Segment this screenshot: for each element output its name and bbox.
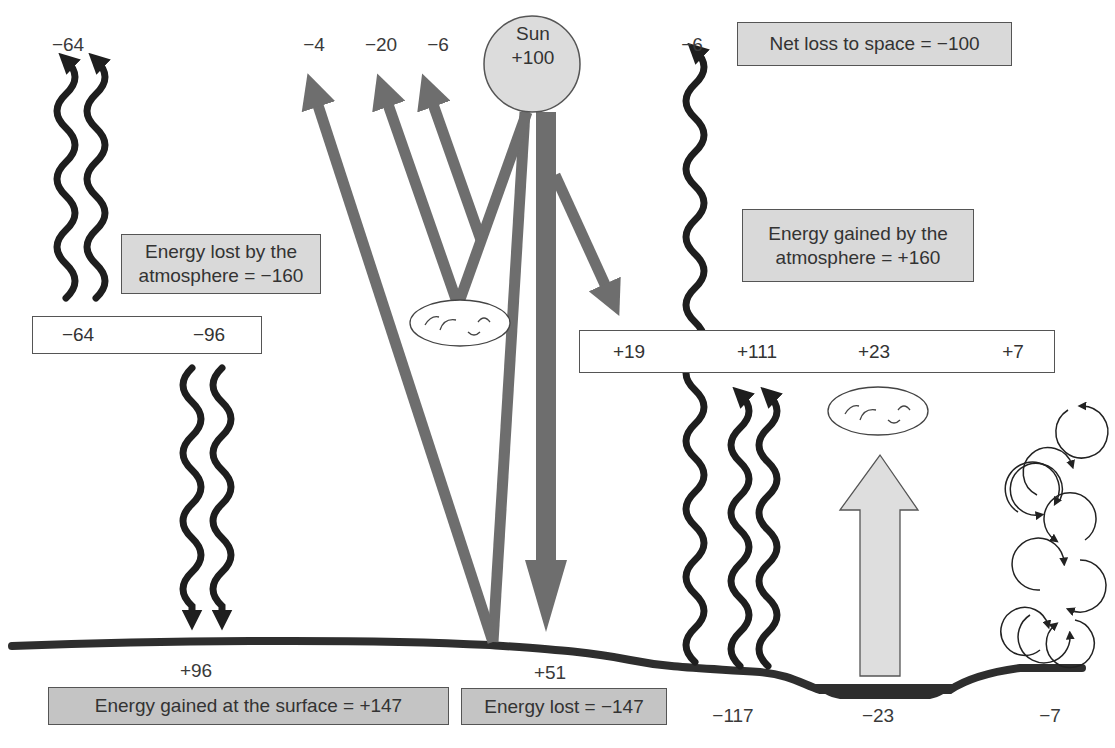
label-surface-solar: +51 — [534, 662, 566, 684]
surface-lost-box: Energy lost = −147 — [461, 688, 667, 725]
atmosphere-emission-wave — [87, 60, 105, 298]
latent-heat-arrow — [840, 455, 918, 676]
sun-value: +100 — [498, 46, 568, 70]
atmosphere-gain-row: +19 +111 +23 +7 — [579, 330, 1055, 373]
sun-name: Sun — [498, 22, 568, 46]
label-surface-reflection: −4 — [303, 34, 325, 56]
surface-to-atmosphere-wave — [759, 394, 777, 666]
label-latent-heat: −23 — [862, 705, 894, 727]
atmosphere-loss-row: −64 −96 — [32, 316, 262, 354]
atmosphere-gained-line2: atmosphere = +160 — [776, 246, 941, 270]
row-value-latent: +23 — [858, 340, 890, 364]
cloud-reflection-arrow — [383, 90, 458, 305]
label-atmosphere-scatter: −6 — [427, 34, 449, 56]
atmosphere-lost-box: Energy lost by the atmosphere = −160 — [121, 234, 321, 294]
back-radiation-wave — [183, 368, 201, 620]
atmosphere-gained-line1: Energy gained by the — [768, 222, 948, 246]
label-atmosphere-to-space: −64 — [52, 34, 84, 56]
label-sensible-heat: −7 — [1039, 705, 1061, 727]
label-cloud-reflection: −20 — [365, 34, 397, 56]
row-value-to-surface: −96 — [193, 323, 225, 347]
label-surface-to-space: −6 — [681, 34, 703, 56]
atmosphere-lost-line2: atmosphere = −160 — [139, 264, 304, 288]
convection-circles — [1001, 406, 1108, 668]
atmosphere-gained-box: Energy gained by the atmosphere = +160 — [742, 209, 974, 282]
atmosphere-scatter-arrow — [428, 90, 481, 240]
surface-gained-box: Energy gained at the surface = +147 — [48, 687, 449, 725]
row-value-solar: +19 — [613, 340, 645, 364]
row-value-to-space: −64 — [62, 323, 94, 347]
atmosphere-lost-line1: Energy lost by the — [145, 240, 297, 264]
surface-reflection-arrow — [313, 90, 493, 642]
label-longwave-emitted: −117 — [712, 705, 753, 727]
label-back-radiation: +96 — [180, 660, 212, 682]
atmosphere-absorb-arrow — [555, 175, 612, 300]
net-loss-box: Net loss to space = −100 — [737, 22, 1012, 66]
row-value-longwave: +111 — [737, 340, 777, 364]
back-radiation-wave — [213, 368, 231, 620]
atmosphere-emission-wave — [57, 60, 75, 298]
sun-label: Sun +100 — [498, 22, 568, 70]
cloud-icon — [828, 387, 928, 435]
row-value-sensible: +7 — [1002, 340, 1024, 364]
cloud-icon — [410, 300, 510, 346]
energy-balance-diagram — [0, 0, 1115, 748]
shortwave-arrows — [313, 90, 612, 642]
surface-to-atmosphere-wave — [731, 394, 749, 666]
